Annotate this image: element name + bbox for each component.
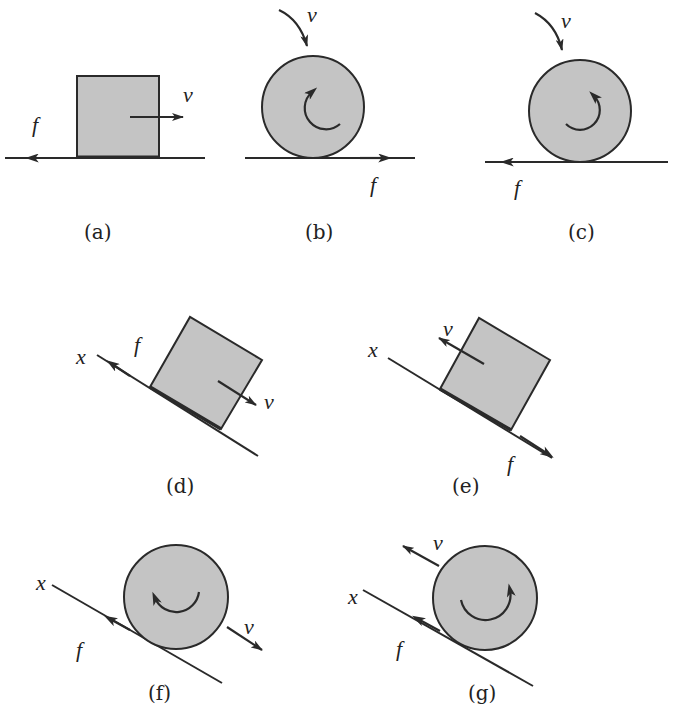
friction-label: f [514, 175, 523, 200]
velocity-arrow [279, 10, 307, 46]
panel-f: x f v (f) [35, 545, 262, 705]
friction-label: f [32, 112, 41, 137]
x-axis-label: x [35, 570, 46, 595]
panel-g: x f v (g) [347, 530, 537, 705]
caption-e: (e) [452, 474, 479, 498]
x-axis-label: x [367, 337, 378, 362]
panel-a: v f (a) [5, 76, 205, 244]
friction-label: f [396, 636, 405, 661]
friction-arrow [520, 436, 548, 454]
panel-e: x v f (e) [367, 316, 552, 498]
panel-b: v f (b) [245, 2, 415, 244]
wheel [529, 60, 631, 162]
caption-b: (b) [305, 220, 333, 244]
velocity-label: v [443, 316, 453, 341]
velocity-label: v [307, 2, 317, 27]
friction-label: f [507, 451, 516, 476]
velocity-label: v [264, 389, 274, 414]
panel-c: v f (c) [485, 8, 668, 244]
velocity-label: v [561, 8, 571, 33]
friction-diagram: v f (a) v f (b) v f (c) x f v (d) [0, 0, 677, 711]
x-axis-label: x [347, 584, 358, 609]
friction-arrow [112, 364, 130, 376]
panel-d: x f v (d) [75, 317, 274, 498]
caption-f: (f) [148, 681, 171, 705]
caption-a: (a) [84, 220, 112, 244]
friction-arrow [110, 619, 130, 630]
velocity-arrow [535, 13, 562, 50]
wheel [433, 546, 537, 650]
caption-c: (c) [568, 220, 595, 244]
friction-arrow [418, 619, 440, 631]
wheel [262, 56, 364, 158]
block [150, 317, 262, 429]
velocity-label: v [244, 614, 254, 639]
block [440, 318, 550, 430]
friction-label: f [370, 172, 379, 197]
x-axis-label: x [75, 344, 86, 369]
friction-label: f [76, 637, 85, 662]
velocity-label: v [433, 530, 443, 555]
caption-d: (d) [166, 474, 194, 498]
friction-label: f [134, 332, 143, 357]
velocity-label: v [183, 82, 193, 107]
wheel [124, 545, 228, 649]
caption-g: (g) [468, 681, 496, 705]
